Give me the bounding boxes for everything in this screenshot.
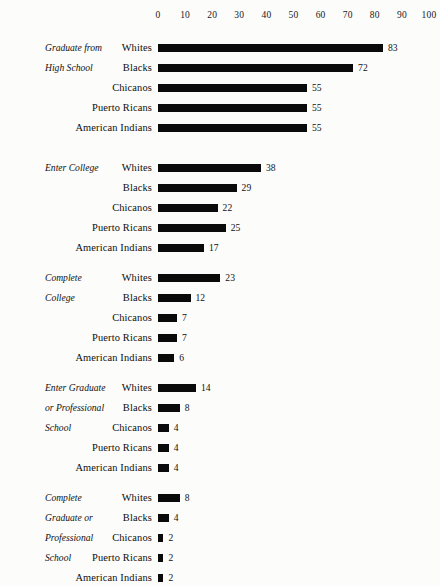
bar-value-label: 38 (266, 158, 276, 178)
bar-value-label: 14 (201, 378, 211, 398)
bar-row: American Indians2 (0, 568, 440, 586)
bar-row: Puerto Ricans7 (0, 328, 440, 348)
bar-value-label: 8 (185, 398, 190, 418)
bar-group: Graduate fromHigh SchoolWhites83Blacks72… (0, 38, 440, 138)
bar-value-label: 2 (168, 548, 173, 568)
bar-row: Blacks72 (0, 58, 440, 78)
bar-row-label: Whites (0, 38, 152, 58)
bar-row: Whites14 (0, 378, 440, 398)
bar (158, 84, 307, 92)
bar (158, 124, 307, 132)
bar (158, 164, 261, 172)
bar-row-label: Blacks (0, 58, 152, 78)
bar-value-label: 55 (312, 118, 322, 138)
bar-value-label: 4 (174, 508, 179, 528)
bar (158, 404, 180, 412)
bar-row: Whites8 (0, 488, 440, 508)
bar-row: American Indians17 (0, 238, 440, 258)
bar (158, 274, 220, 282)
bar (158, 444, 169, 452)
bar-row-label: Chicanos (0, 198, 152, 218)
bar-row: American Indians55 (0, 118, 440, 138)
bar-group: Enter Graduateor ProfessionalSchoolWhite… (0, 378, 440, 478)
bar-value-label: 6 (179, 348, 184, 368)
bar-value-label: 29 (242, 178, 252, 198)
bar-value-label: 12 (196, 288, 206, 308)
bar (158, 64, 353, 72)
bar (158, 574, 163, 582)
bar-row-label: Blacks (0, 398, 152, 418)
bar-row-label: Puerto Ricans (0, 328, 152, 348)
bar-value-label: 55 (312, 78, 322, 98)
bar-value-label: 2 (168, 568, 173, 586)
bar-row-label: American Indians (0, 238, 152, 258)
bar-row: Whites38 (0, 158, 440, 178)
bar (158, 44, 383, 52)
bar-value-label: 83 (388, 38, 398, 58)
bar-row: Chicanos55 (0, 78, 440, 98)
bar-row-label: Puerto Ricans (0, 548, 152, 568)
bar (158, 184, 237, 192)
bar-row-label: Puerto Ricans (0, 438, 152, 458)
bar-row: Whites23 (0, 268, 440, 288)
bar-value-label: 2 (168, 528, 173, 548)
bar-value-label: 8 (185, 488, 190, 508)
bar (158, 244, 204, 252)
bar-row: Blacks8 (0, 398, 440, 418)
bar (158, 424, 169, 432)
bar-row: Blacks4 (0, 508, 440, 528)
bar (158, 224, 226, 232)
bar-row: Blacks29 (0, 178, 440, 198)
bar-row-label: Whites (0, 268, 152, 288)
bar-group: CompleteGraduate orProfessionalSchoolWhi… (0, 488, 440, 586)
bar-row-label: American Indians (0, 118, 152, 138)
bar-value-label: 22 (223, 198, 233, 218)
bar-value-label: 7 (182, 328, 187, 348)
bar-row-label: Chicanos (0, 528, 152, 548)
bar (158, 464, 169, 472)
bar-row: Puerto Ricans2 (0, 548, 440, 568)
bar-row: Chicanos2 (0, 528, 440, 548)
bar-row-label: American Indians (0, 458, 152, 478)
bar (158, 354, 174, 362)
bar (158, 204, 218, 212)
bar-row-label: Chicanos (0, 418, 152, 438)
bar-row-label: American Indians (0, 568, 152, 586)
bar (158, 494, 180, 502)
bar-value-label: 25 (231, 218, 241, 238)
bar (158, 314, 177, 322)
bar (158, 514, 169, 522)
bar-value-label: 4 (174, 438, 179, 458)
bar-group: CompleteCollegeWhites23Blacks12Chicanos7… (0, 268, 440, 368)
bar-row: Puerto Ricans55 (0, 98, 440, 118)
bar-row: Blacks12 (0, 288, 440, 308)
bar (158, 554, 163, 562)
bar (158, 334, 177, 342)
bar-row-label: Whites (0, 378, 152, 398)
bar-row-label: Whites (0, 158, 152, 178)
bar-row-label: Puerto Ricans (0, 98, 152, 118)
bar-value-label: 4 (174, 458, 179, 478)
bar-row-label: Chicanos (0, 308, 152, 328)
bar-row-label: Blacks (0, 178, 152, 198)
bar-row-label: Chicanos (0, 78, 152, 98)
bar (158, 294, 191, 302)
bar-row: Chicanos7 (0, 308, 440, 328)
bar-group: Enter CollegeWhites38Blacks29Chicanos22P… (0, 158, 440, 258)
bar-row-label: Blacks (0, 508, 152, 528)
bar-row: Chicanos4 (0, 418, 440, 438)
bar-value-label: 17 (209, 238, 219, 258)
bar-row-label: Blacks (0, 288, 152, 308)
bar-row: Puerto Ricans25 (0, 218, 440, 238)
bar-row: Chicanos22 (0, 198, 440, 218)
bar (158, 384, 196, 392)
bar-row: American Indians6 (0, 348, 440, 368)
bar-row: American Indians4 (0, 458, 440, 478)
bar-value-label: 72 (358, 58, 368, 78)
bar-row-label: Whites (0, 488, 152, 508)
bar-row-label: American Indians (0, 348, 152, 368)
bar-value-label: 23 (225, 268, 235, 288)
bar-row-label: Puerto Ricans (0, 218, 152, 238)
